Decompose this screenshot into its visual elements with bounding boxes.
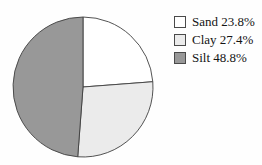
legend-label: Silt 48.8% bbox=[192, 52, 247, 64]
pie-slice-clay bbox=[78, 82, 153, 157]
pie-slice-sand bbox=[83, 17, 153, 87]
legend-swatch bbox=[174, 52, 186, 64]
legend-label: Clay 27.4% bbox=[192, 34, 253, 46]
legend-swatch bbox=[174, 34, 186, 46]
pie-chart bbox=[0, 0, 170, 165]
legend-label: Sand 23.8% bbox=[192, 16, 255, 28]
legend-row: Sand 23.8% bbox=[174, 16, 255, 28]
legend-row: Clay 27.4% bbox=[174, 34, 255, 46]
pie-slice-silt bbox=[13, 17, 83, 157]
legend-row: Silt 48.8% bbox=[174, 52, 255, 64]
legend: Sand 23.8% Clay 27.4% Silt 48.8% bbox=[174, 16, 255, 64]
legend-swatch bbox=[174, 16, 186, 28]
pie-chart-figure: Sand 23.8% Clay 27.4% Silt 48.8% bbox=[0, 0, 262, 165]
